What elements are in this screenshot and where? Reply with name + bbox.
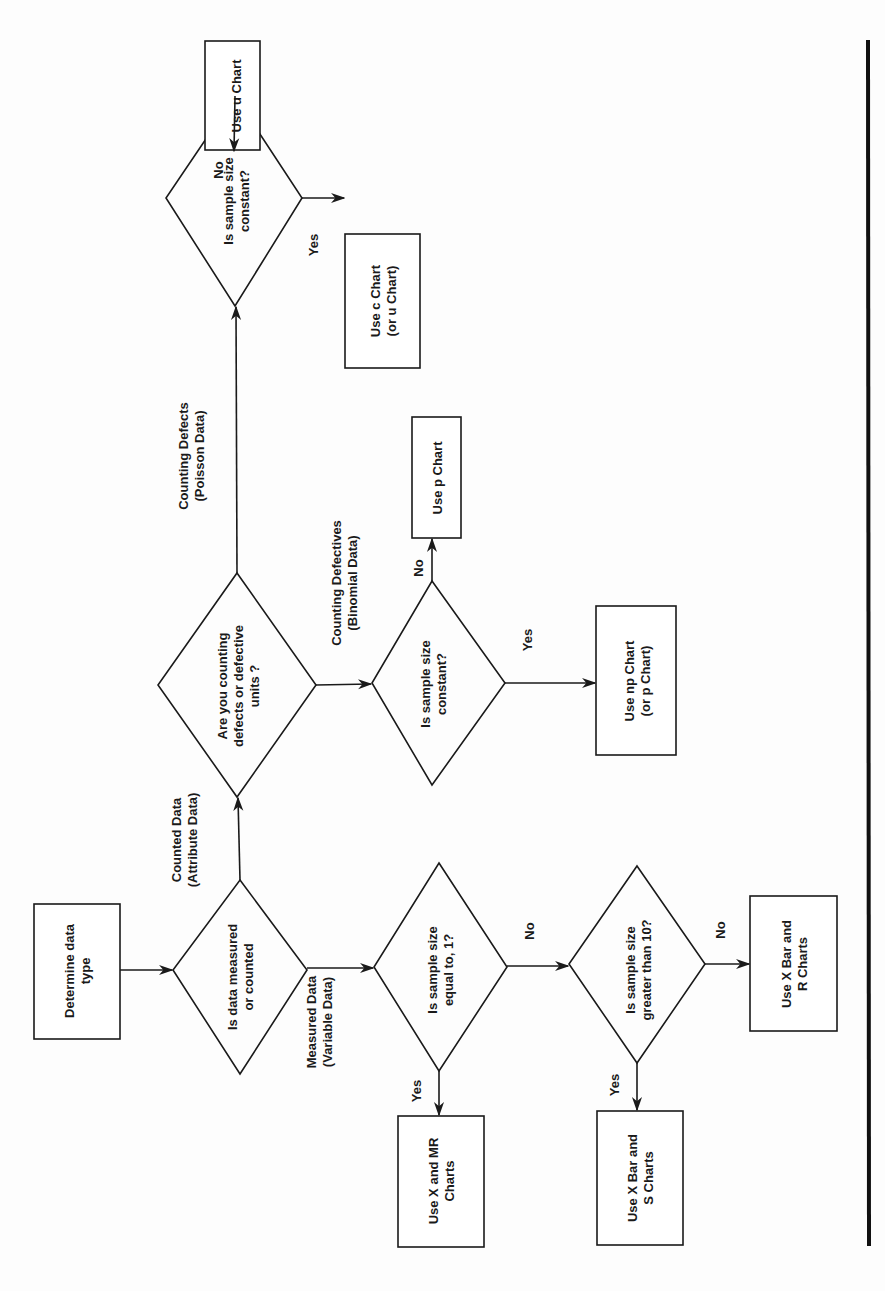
svg-text:constant?: constant?: [237, 170, 252, 232]
edge-label-measured: Measured Data (Variable Data): [304, 975, 335, 1068]
edge-label-binomial-no: No: [411, 559, 426, 576]
svg-text:greater than 10?: greater than 10?: [639, 919, 654, 1020]
svg-text:(or u Chart): (or u Chart): [384, 266, 399, 337]
svg-text:No: No: [713, 921, 728, 938]
edge-label-binomial-yes: Yes: [520, 629, 535, 651]
svg-text:Measured Data: Measured Data: [304, 975, 319, 1068]
decision-measured-label: Is data measured or counted: [225, 924, 256, 1030]
svg-text:Use u Chart: Use u Chart: [229, 59, 244, 133]
svg-text:No: No: [411, 559, 426, 576]
svg-text:Use np Chart: Use np Chart: [622, 640, 637, 722]
outcome-x-mr-charts: [398, 1116, 484, 1247]
arrow-counted: [238, 798, 240, 880]
svg-text:Is sample size: Is sample size: [418, 640, 433, 727]
outcome-p-label: Use p Chart: [430, 441, 445, 515]
svg-text:(or p Chart): (or p Chart): [638, 646, 653, 717]
svg-text:units ?: units ?: [247, 665, 262, 708]
decision-measured-or-counted: [173, 880, 307, 1074]
svg-text:Is data measured: Is data measured: [225, 924, 240, 1030]
decision-gt10-label: Is sample size greater than 10?: [623, 919, 654, 1020]
edge-label-poisson-no: No: [211, 161, 226, 178]
svg-text:Is sample size: Is sample size: [425, 926, 440, 1013]
svg-text:No: No: [522, 922, 537, 939]
svg-text:(Attribute Data): (Attribute Data): [185, 793, 200, 888]
svg-text:equal to, 1?: equal to, 1?: [441, 934, 456, 1006]
svg-text:Is sample size: Is sample size: [623, 926, 638, 1013]
svg-text:Yes: Yes: [607, 1074, 622, 1096]
svg-text:Counting Defects: Counting Defects: [176, 402, 191, 510]
svg-text:Determine data: Determine data: [62, 923, 77, 1018]
edge-label-equal1-no: No: [522, 922, 537, 939]
edge-label-poisson-yes: Yes: [306, 234, 321, 256]
edge-label-gt10-no: No: [713, 921, 728, 938]
decision-equal1-label: Is sample size equal to, 1?: [425, 926, 456, 1013]
outcome-c-label: Use c Chart (or u Chart): [368, 264, 399, 337]
arrow-defects: [236, 307, 237, 573]
svg-text:(Variable Data): (Variable Data): [320, 977, 335, 1067]
svg-text:Yes: Yes: [520, 629, 535, 651]
svg-text:(Poisson Data): (Poisson Data): [192, 410, 207, 501]
outcome-xbar-s-charts: [597, 1111, 683, 1245]
control-chart-selection-flowchart: Determine data type Is data measured or …: [0, 0, 885, 1291]
outcome-np-label: Use np Chart (or p Chart): [622, 640, 653, 722]
svg-text:R Charts: R Charts: [795, 937, 810, 991]
svg-text:defects or defective: defects or defective: [231, 625, 246, 747]
svg-text:constant?: constant?: [434, 653, 449, 715]
svg-text:Use p Chart: Use p Chart: [430, 441, 445, 515]
svg-text:Use c Chart: Use c Chart: [368, 264, 383, 337]
start-box: [34, 904, 120, 1039]
svg-text:Use X and MR: Use X and MR: [426, 1137, 441, 1224]
decision-binomial-const-label: Is sample size constant?: [418, 640, 449, 727]
svg-text:Yes: Yes: [306, 234, 321, 256]
svg-text:Charts: Charts: [442, 1160, 457, 1201]
page-margin-rule: [868, 40, 869, 1246]
arrow-defectives: [316, 684, 371, 685]
edge-label-equal1-yes: Yes: [409, 1080, 424, 1102]
edge-label-counted: Counted Data (Attribute Data): [169, 793, 200, 888]
svg-text:No: No: [211, 161, 226, 178]
edge-label-defectives: Counting Defectives (Binomial Data): [329, 520, 360, 646]
svg-text:Use X Bar and: Use X Bar and: [625, 1134, 640, 1222]
svg-text:Yes: Yes: [409, 1080, 424, 1102]
flowchart-page: Determine data type Is data measured or …: [0, 0, 885, 1291]
svg-text:(Binomial Data): (Binomial Data): [345, 535, 360, 630]
svg-text:S Charts: S Charts: [641, 1151, 656, 1204]
svg-text:or counted: or counted: [241, 943, 256, 1010]
svg-text:Use X Bar and: Use X Bar and: [779, 920, 794, 1008]
svg-text:Are you counting: Are you counting: [215, 632, 230, 739]
svg-text:Counting Defectives: Counting Defectives: [329, 520, 344, 646]
outcome-u-label: Use u Chart: [229, 59, 244, 133]
svg-text:Counted Data: Counted Data: [169, 797, 184, 882]
svg-text:type: type: [78, 958, 93, 985]
edge-label-gt10-yes: Yes: [607, 1074, 622, 1096]
edge-label-defects: Counting Defects (Poisson Data): [176, 402, 207, 510]
decision-defects-label: Are you counting defects or defective un…: [215, 625, 262, 747]
